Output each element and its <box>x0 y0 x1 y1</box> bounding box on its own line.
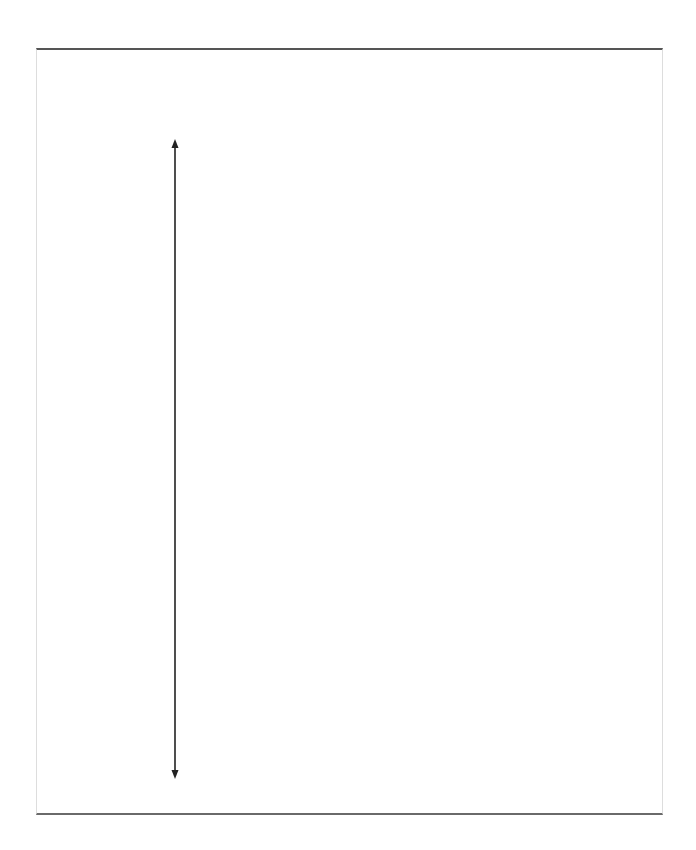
arrow-head-up-icon <box>172 139 179 148</box>
arrow-head-down-icon <box>172 770 179 779</box>
double-headed-arrow-icon <box>0 0 696 850</box>
